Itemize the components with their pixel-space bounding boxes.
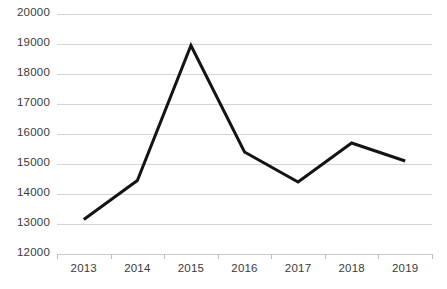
plot-area	[57, 14, 432, 254]
y-tick-label: 15000	[17, 156, 50, 168]
y-tick-label: 13000	[17, 216, 50, 228]
y-tick-label: 20000	[17, 6, 50, 18]
series-polyline	[84, 46, 405, 220]
line-chart: 2000019000180001700016000150001400013000…	[0, 0, 447, 289]
x-tick-label: 2017	[285, 262, 311, 274]
y-tick-label: 17000	[17, 96, 50, 108]
x-tick-mark	[218, 254, 219, 259]
x-tick-label: 2019	[392, 262, 418, 274]
y-tick-label: 12000	[17, 246, 50, 258]
y-tick-label: 14000	[17, 186, 50, 198]
y-axis-tick-labels: 2000019000180001700016000150001400013000…	[0, 14, 50, 254]
series-line	[57, 14, 432, 254]
y-tick-label: 16000	[17, 126, 50, 138]
x-tick-mark	[378, 254, 379, 259]
x-tick-mark	[164, 254, 165, 259]
x-tick-label: 2016	[231, 262, 257, 274]
x-tick-mark	[432, 254, 433, 259]
x-tick-mark	[325, 254, 326, 259]
y-tick-label: 19000	[17, 36, 50, 48]
y-tick-label: 18000	[17, 66, 50, 78]
x-tick-label: 2015	[178, 262, 204, 274]
x-tick-label: 2014	[124, 262, 150, 274]
x-tick-label: 2013	[71, 262, 97, 274]
x-tick-mark	[111, 254, 112, 259]
x-tick-mark	[271, 254, 272, 259]
x-tick-label: 2018	[338, 262, 364, 274]
x-axis-tick-labels: 2013201420152016201720182019	[57, 254, 432, 284]
x-tick-mark	[57, 254, 58, 259]
